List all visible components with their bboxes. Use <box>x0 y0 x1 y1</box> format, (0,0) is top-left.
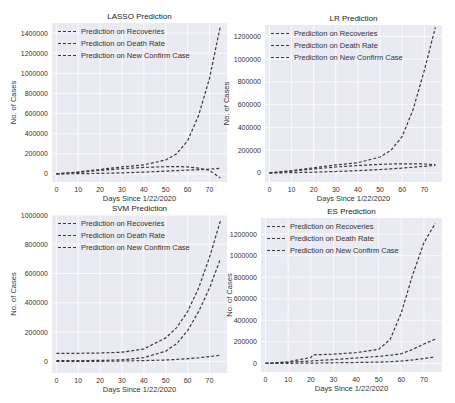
y-tick-label: 800000 <box>25 90 48 97</box>
legend-entry: Prediction on Death Rate <box>294 41 378 50</box>
x-tick-label: 20 <box>310 186 318 193</box>
y-axis-label: No. of Cases <box>9 81 18 125</box>
x-axis-label: Days Since 1/22/2020 <box>315 384 388 393</box>
x-tick-label: 10 <box>74 186 82 193</box>
y-tick-label: 1000000 <box>234 56 261 63</box>
y-tick-label: 200000 <box>234 338 257 345</box>
x-tick-label: 30 <box>118 377 126 384</box>
x-axis-label: Days Since 1/22/2020 <box>103 194 176 203</box>
y-tick-label: 800000 <box>238 78 261 85</box>
x-tick-label: 50 <box>376 186 384 193</box>
y-axis-label: No. of Cases <box>222 82 231 126</box>
y-tick-label: 200000 <box>238 147 261 154</box>
x-tick-label: 0 <box>54 377 58 384</box>
y-tick-label: 1200000 <box>234 33 261 40</box>
subplot-1: 0200000400000600000800000100000012000001… <box>9 12 227 203</box>
x-axis-label: Days Since 1/22/2020 <box>103 385 176 394</box>
x-tick-label: 70 <box>206 186 214 193</box>
y-tick-label: 800000 <box>25 241 48 248</box>
legend-entry: Prediction on New Confirm Case <box>294 53 403 62</box>
x-tick-label: 10 <box>284 376 292 383</box>
subplot-4: 0200000400000600000800000100000012000000… <box>225 207 442 393</box>
x-tick-label: 20 <box>307 376 315 383</box>
x-tick-label: 40 <box>352 376 360 383</box>
x-tick-label: 10 <box>74 377 82 384</box>
legend-entry: Prediction on Recoveries <box>294 29 378 38</box>
x-tick-label: 0 <box>264 376 268 383</box>
x-tick-label: 60 <box>397 376 405 383</box>
y-tick-label: 0 <box>257 169 261 176</box>
subplot-3: 0200000400000600000800000100000001020304… <box>9 204 227 394</box>
y-tick-label: 600000 <box>25 270 48 277</box>
legend-entry: Prediction on New Confirm Case <box>81 51 190 60</box>
x-tick-label: 50 <box>162 186 170 193</box>
x-tick-label: 20 <box>96 377 104 384</box>
legend-entry: Prediction on Recoveries <box>81 219 165 228</box>
legend-entry: Prediction on New Confirm Case <box>290 246 399 255</box>
x-tick-label: 50 <box>162 377 170 384</box>
x-tick-label: 0 <box>267 186 271 193</box>
chart-title: LR Prediction <box>329 14 377 23</box>
y-tick-label: 0 <box>253 360 257 367</box>
y-tick-label: 400000 <box>25 299 48 306</box>
y-tick-label: 600000 <box>25 110 48 117</box>
y-tick-label: 400000 <box>238 124 261 131</box>
y-axis-label: No. of Cases <box>225 273 234 317</box>
y-tick-label: 1400000 <box>21 30 48 37</box>
y-tick-label: 0 <box>44 358 48 365</box>
y-tick-label: 200000 <box>25 329 48 336</box>
subplot-2: 0200000400000600000800000100000012000000… <box>222 14 442 203</box>
y-tick-label: 600000 <box>234 295 257 302</box>
y-tick-label: 400000 <box>25 130 48 137</box>
x-tick-label: 20 <box>96 186 104 193</box>
y-tick-label: 400000 <box>234 317 257 324</box>
chart-title: ES Prediction <box>327 207 375 216</box>
legend-entry: Prediction on Death Rate <box>81 39 165 48</box>
y-axis-label: No. of Cases <box>9 272 18 316</box>
legend-entry: Prediction on New Confirm Case <box>81 243 190 252</box>
x-tick-label: 40 <box>140 377 148 384</box>
x-tick-label: 30 <box>330 376 338 383</box>
x-axis-label: Days Since 1/22/2020 <box>317 194 390 203</box>
x-tick-label: 60 <box>184 186 192 193</box>
y-tick-label: 600000 <box>238 101 261 108</box>
x-tick-label: 40 <box>140 186 148 193</box>
x-tick-label: 70 <box>206 377 214 384</box>
x-tick-label: 60 <box>184 377 192 384</box>
y-tick-label: 1000000 <box>21 212 48 219</box>
x-tick-label: 10 <box>288 186 296 193</box>
y-tick-label: 1200000 <box>21 50 48 57</box>
legend-entry: Prediction on Recoveries <box>81 27 165 36</box>
legend-entry: Prediction on Death Rate <box>290 234 374 243</box>
y-tick-label: 1200000 <box>230 231 257 238</box>
x-tick-label: 50 <box>375 376 383 383</box>
x-tick-label: 30 <box>332 186 340 193</box>
y-tick-label: 800000 <box>234 274 257 281</box>
legend-entry: Prediction on Recoveries <box>290 222 374 231</box>
x-tick-label: 60 <box>398 186 406 193</box>
y-tick-label: 200000 <box>25 150 48 157</box>
x-tick-label: 70 <box>420 376 428 383</box>
chart-title: SVM Prediction <box>112 204 167 213</box>
y-tick-label: 1000000 <box>230 252 257 259</box>
y-tick-label: 0 <box>44 170 48 177</box>
y-tick-label: 1000000 <box>21 70 48 77</box>
figure: 0200000400000600000800000100000012000001… <box>0 0 455 403</box>
x-tick-label: 70 <box>420 186 428 193</box>
chart-title: LASSO Prediction <box>107 12 171 21</box>
x-tick-label: 0 <box>54 186 58 193</box>
legend-entry: Prediction on Death Rate <box>81 231 165 240</box>
x-tick-label: 40 <box>354 186 362 193</box>
x-tick-label: 30 <box>118 186 126 193</box>
